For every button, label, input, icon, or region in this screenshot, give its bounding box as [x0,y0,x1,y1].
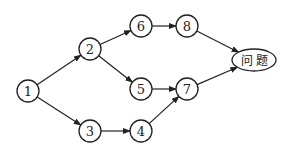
node-label: 3 [86,124,94,139]
arrow-line [37,55,81,85]
edge-n8-to-goal [197,31,239,52]
node-7: 7 [176,78,198,100]
graph-diagram: 12345678问题 [0,0,287,153]
node-label: 6 [137,19,145,34]
node-label: 2 [86,42,94,57]
edge-n2-to-n5 [99,56,133,82]
arrow-line [197,31,239,52]
arrow-line [197,67,237,84]
node-label: 8 [183,19,191,34]
arrow-line [37,97,81,125]
node-5: 5 [130,78,152,100]
arrow-line [100,31,131,45]
arrow-line [99,56,133,82]
edge-n2-to-n6 [100,31,131,45]
node-label: 问题 [241,54,271,68]
node-8: 8 [176,15,198,37]
goal-node: 问题 [232,49,276,71]
node-label: 4 [137,124,145,139]
arrow-line [149,96,179,123]
node-4: 4 [130,120,152,142]
node-1: 1 [17,80,39,102]
node-label: 7 [183,82,191,97]
node-6: 6 [130,15,152,37]
edge-n4-to-n7 [149,96,179,123]
edge-n7-to-goal [197,67,237,84]
edge-n1-to-n2 [37,55,81,85]
edge-n1-to-n3 [37,97,81,125]
node-label: 5 [137,82,145,97]
node-3: 3 [79,120,101,142]
node-2: 2 [79,38,101,60]
node-label: 1 [24,84,32,99]
